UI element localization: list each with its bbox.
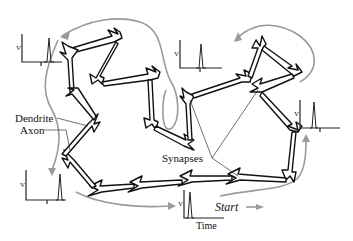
recording-top-left (22, 34, 62, 66)
voltage-axis-label: V (174, 51, 179, 58)
neuron (192, 70, 252, 98)
synapses-label: Synapses (162, 153, 203, 164)
arrowhead-icon (234, 32, 242, 42)
recording-bottom-left (26, 170, 66, 204)
neuron (248, 36, 266, 78)
voltage-axis-label: V (294, 111, 299, 118)
neuron (90, 42, 118, 84)
arrowhead-icon (168, 202, 176, 210)
neuron (250, 74, 294, 92)
arrowhead-icon (48, 168, 56, 176)
neuron (60, 42, 78, 92)
action-potential-trace (56, 174, 64, 200)
axis (22, 34, 62, 62)
neuron (88, 180, 134, 196)
dendrite-leader (57, 118, 88, 126)
neuron (128, 176, 182, 192)
neurons (60, 28, 302, 196)
arrowhead-icon (60, 31, 70, 40)
neuron (144, 80, 158, 130)
voltage-axis-label: V (178, 201, 183, 208)
recording-right (300, 100, 340, 132)
action-potential-trace (186, 192, 194, 218)
neuron (66, 88, 96, 120)
dendrite-label: Dendrite (15, 113, 53, 124)
arrowhead-icon (302, 134, 310, 142)
time-axis-label: Time (196, 221, 217, 231)
axis (300, 100, 340, 128)
voltage-axis-label: V (16, 45, 21, 52)
neuron (178, 170, 232, 186)
neuron (226, 168, 286, 184)
neuron (282, 132, 296, 182)
voltage-axis-label: V (20, 182, 25, 189)
axon-label: Axon (20, 125, 44, 136)
action-potential-trace (44, 38, 54, 62)
arrowhead-icon (256, 204, 264, 210)
action-potential-trace (310, 102, 318, 128)
start-label: Start (215, 201, 238, 213)
leader-line (212, 90, 258, 158)
action-potential-trace (196, 44, 206, 68)
neuron (262, 46, 302, 76)
leader-line (212, 158, 238, 176)
recording-top-center (180, 40, 222, 72)
neuron (180, 88, 194, 140)
